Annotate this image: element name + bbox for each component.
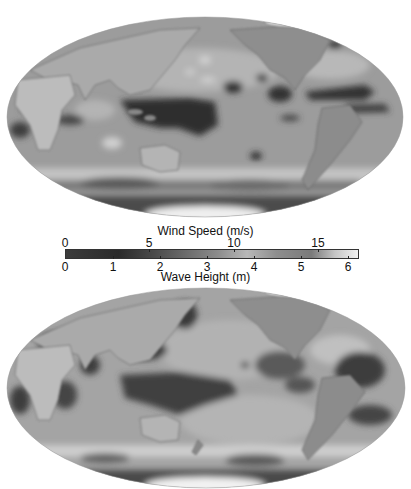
wind-tick-5: 5 [146, 236, 153, 250]
wind-tick-10: 10 [227, 236, 240, 250]
wind-tick-15: 15 [311, 236, 324, 250]
tick-mark [301, 256, 302, 259]
tick-mark [254, 256, 255, 259]
tick-mark [207, 256, 208, 259]
tick-mark [318, 249, 319, 252]
wind-map-fill [0, 12, 411, 224]
wave-height-title: Wave Height (m) [0, 270, 411, 284]
tick-mark [348, 256, 349, 259]
tick-mark [113, 256, 114, 259]
colorbar [65, 249, 359, 259]
tick-mark [160, 256, 161, 259]
wind-speed-map [0, 12, 411, 224]
tick-mark [149, 249, 150, 252]
wind-tick-0: 0 [62, 236, 69, 250]
tick-mark [234, 249, 235, 252]
wave-height-map [0, 283, 411, 489]
wave-map-fill [0, 283, 411, 489]
